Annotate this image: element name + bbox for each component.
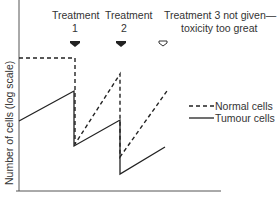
y-axis-label: Number of cells (log scale) bbox=[3, 61, 15, 185]
treatment-3-open-arrow-icon bbox=[159, 41, 167, 46]
treatment-1-arrow-icon bbox=[70, 41, 80, 47]
treatment-1-label: Treatment bbox=[52, 9, 100, 21]
chart-canvas: Number of cells (log scale) Treatment 1 … bbox=[0, 0, 280, 197]
legend-tumour-label: Tumour cells bbox=[215, 112, 275, 124]
legend-normal-label: Normal cells bbox=[215, 100, 273, 112]
tumour-cells-line bbox=[19, 91, 165, 174]
treatment-2-number: 2 bbox=[121, 22, 127, 34]
legend: Normal cells Tumour cells bbox=[189, 100, 275, 124]
treatment-3-label: Treatment 3 not given— bbox=[164, 9, 277, 21]
treatment-3-note: toxicity too great bbox=[181, 22, 258, 34]
treatment-2-label: Treatment bbox=[105, 9, 153, 21]
treatment-1-number: 1 bbox=[72, 22, 78, 34]
normal-cells-line bbox=[19, 58, 167, 157]
treatment-2-arrow-icon bbox=[116, 41, 126, 47]
